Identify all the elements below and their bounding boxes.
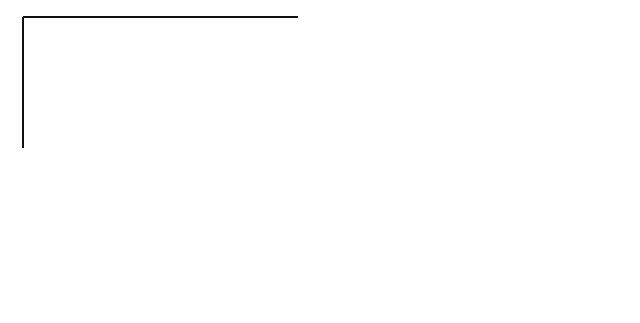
- panel-frame: [23, 17, 298, 148]
- frame: [23, 16, 298, 148]
- box: [23, 16, 299, 147]
- mechanics-diagram: [0, 0, 640, 323]
- figure-border: [23, 17, 298, 148]
